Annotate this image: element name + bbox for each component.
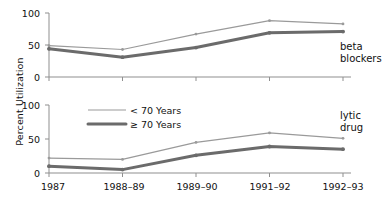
- series-line-lytic-drug-1: [49, 146, 343, 169]
- data-point-lytic-drug-1-0: [47, 164, 51, 168]
- data-point-beta-blockers-0-2: [195, 33, 198, 36]
- data-point-beta-blockers-1-3: [268, 31, 272, 35]
- chart-figure: Percent Utilization 100 50 0 100 50 0 19…: [0, 0, 388, 202]
- data-point-lytic-drug-0-3: [268, 131, 271, 134]
- data-point-beta-blockers-1-1: [121, 55, 125, 59]
- data-point-lytic-drug-1-2: [194, 153, 198, 157]
- data-point-beta-blockers-0-4: [342, 22, 345, 25]
- chart-legend: [88, 110, 126, 124]
- data-point-lytic-drug-0-1: [121, 158, 124, 161]
- data-point-lytic-drug-0-4: [342, 137, 345, 140]
- data-point-beta-blockers-0-1: [121, 48, 124, 51]
- panel-lytic-drug: [45, 105, 351, 177]
- data-point-lytic-drug-1-1: [121, 168, 125, 172]
- panel-beta-blockers: [45, 13, 351, 81]
- data-point-beta-blockers-1-0: [47, 47, 51, 51]
- chart-plot-surface: [0, 0, 388, 202]
- data-point-beta-blockers-1-4: [341, 30, 345, 34]
- data-point-lytic-drug-1-4: [341, 147, 345, 151]
- data-point-beta-blockers-0-3: [268, 19, 271, 22]
- data-point-beta-blockers-1-2: [194, 46, 198, 50]
- data-point-lytic-drug-0-2: [195, 141, 198, 144]
- data-point-lytic-drug-1-3: [268, 145, 272, 149]
- data-point-beta-blockers-0-0: [48, 44, 51, 47]
- data-point-lytic-drug-0-0: [48, 157, 51, 160]
